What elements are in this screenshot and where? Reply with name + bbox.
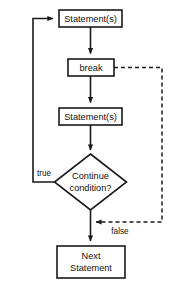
node-statements-top[interactable]: Statement(s) (59, 10, 122, 27)
node-next-statement[interactable]: Next Statement (57, 246, 125, 278)
edge-label-false: false (111, 227, 129, 236)
node-break[interactable]: break (68, 59, 114, 76)
node-statements-bottom-label: Statement(s) (64, 112, 117, 122)
node-next-statement-label-line1: Next (82, 251, 101, 261)
node-continue-condition-label-line2: condition? (70, 183, 112, 193)
flowchart-canvas: Statement(s) break Statement(s) Continue… (0, 0, 172, 291)
node-continue-condition-label-line1: Continue (72, 171, 109, 181)
edge-condition-true-loopback (33, 19, 55, 183)
edge-label-true: true (37, 169, 52, 178)
node-statements-bottom[interactable]: Statement(s) (59, 108, 122, 125)
node-next-statement-label-line2: Statement (70, 263, 112, 273)
node-break-label: break (80, 63, 103, 73)
node-statements-top-label: Statement(s) (64, 14, 117, 24)
flowchart-svg: Statement(s) break Statement(s) Continue… (0, 0, 172, 291)
node-continue-condition[interactable]: Continue condition? (55, 154, 127, 210)
